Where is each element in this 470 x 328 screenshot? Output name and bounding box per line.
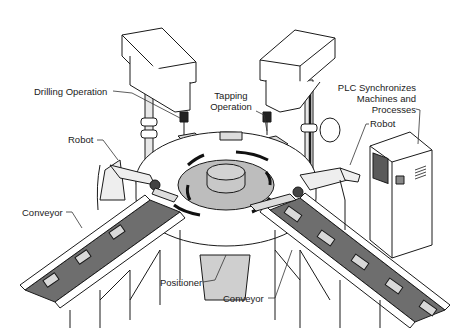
label-robot-right: Robot <box>370 118 395 129</box>
label-plc-line2: Machines and <box>328 93 416 104</box>
label-plc-line3: Processes <box>328 104 416 115</box>
label-tapping-line2: Operation <box>205 101 257 112</box>
diagram-illustration <box>0 0 470 328</box>
label-plc: PLC Synchronizes Machines and Processes <box>328 82 416 115</box>
machining-cell-diagram: Drilling Operation Tapping Operation PLC… <box>0 0 470 328</box>
label-robot-left: Robot <box>68 134 93 145</box>
label-drilling-operation: Drilling Operation <box>34 86 107 97</box>
label-conveyor-right: Conveyor <box>223 293 264 304</box>
label-tapping-operation: Tapping Operation <box>205 90 257 112</box>
label-positioner: Positioner <box>160 277 202 288</box>
label-conveyor-left: Conveyor <box>22 207 63 218</box>
label-plc-line1: PLC Synchronizes <box>328 82 416 93</box>
plc-cabinet <box>370 132 432 258</box>
label-tapping-line1: Tapping <box>205 90 257 101</box>
